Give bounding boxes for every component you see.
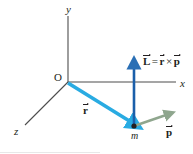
L-glyph: L [143,56,150,67]
r-vector-label: r [83,104,88,116]
cross-product-sign: × [164,56,173,67]
L-vector-glyph: L [143,55,150,67]
z-axis-line [25,82,68,125]
r-operand-glyph: r [160,55,165,67]
r-glyph: r [83,105,88,116]
mass-label: m [131,131,138,141]
p-vector-arrow [134,115,166,126]
r-operand: r [160,56,165,67]
x-axis-label: x [180,78,185,89]
p-operand: p [174,56,180,67]
angular-momentum-figure: y x z O r p L = r × p m [0,0,193,154]
diagram-canvas [0,0,193,154]
mass-point-dot [131,123,136,128]
y-axis-label: y [66,4,71,15]
r-vector-arrow [68,83,131,122]
angular-momentum-equation: L = r × p [143,55,180,67]
p-vector-glyph: p [166,126,172,138]
origin-label: O [54,72,62,83]
footer-divider [0,152,100,153]
p-vector-label: p [166,126,172,138]
p-operand-glyph: p [174,55,180,67]
r-vector-glyph: r [83,104,88,116]
equals-sign: = [150,56,159,67]
p-glyph: p [166,127,172,138]
z-axis-label: z [14,126,18,137]
